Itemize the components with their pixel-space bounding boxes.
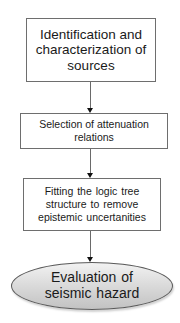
step-evaluation-label: Evaluation of seismic hazard [32, 270, 152, 301]
arrow-step1-to-step2 [89, 82, 91, 113]
arrow-shaft [90, 149, 91, 174]
arrow-step2-to-step3 [89, 149, 91, 178]
step-attenuation-label: Selection of attenuation relations [34, 118, 154, 144]
step-attenuation-box: Selection of attenuation relations [20, 113, 168, 149]
step-logic-tree-box: Fitting the logic tree structure to remo… [23, 178, 161, 231]
step-evaluation-ellipse: Evaluation of seismic hazard [11, 262, 173, 310]
arrow-shaft [90, 231, 91, 258]
step-identification-label: Identification and characterization of s… [33, 27, 149, 72]
step-identification-box: Identification and characterization of s… [26, 18, 156, 82]
arrow-shaft [90, 82, 91, 109]
step-logic-tree-label: Fitting the logic tree structure to remo… [29, 185, 155, 223]
arrow-step3-to-step4 [89, 231, 91, 262]
